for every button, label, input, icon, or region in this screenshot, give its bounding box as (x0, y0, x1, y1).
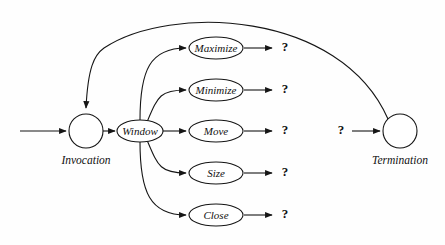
hub-node: Window (117, 120, 163, 142)
invocation-circle (69, 114, 103, 148)
maximize-node: Maximize? (189, 37, 288, 59)
edge-window-to-size (147, 140, 186, 173)
minimize-node-label: Minimize (195, 84, 237, 96)
diagram-canvas: Invocation Window Maximize?Minimize?Move… (0, 0, 445, 245)
state-diagram: Invocation Window Maximize?Minimize?Move… (0, 0, 445, 245)
maximize-node-label: Maximize (194, 42, 238, 54)
invocation-caption: Invocation (60, 154, 110, 166)
move-node-result-marker: ? (282, 122, 289, 137)
move-node-label: Move (203, 125, 229, 137)
move-node: Move? (189, 120, 288, 142)
termination-input-marker: ? (338, 122, 345, 137)
edge-window-to-maximize (140, 48, 186, 120)
close-node: Close? (189, 204, 288, 226)
action-nodes-layer: Maximize?Minimize?Move?Size?Close? (189, 37, 288, 226)
edge-termination-to-invocation-loop (86, 22, 388, 119)
size-node: Size? (189, 162, 288, 184)
termination-caption: Termination (372, 154, 428, 166)
size-node-result-marker: ? (282, 164, 289, 179)
maximize-node-result-marker: ? (282, 39, 289, 54)
edge-window-to-close (140, 142, 186, 215)
start-node: Invocation (60, 114, 110, 166)
minimize-node: Minimize? (189, 79, 288, 101)
termination-circle (383, 114, 417, 148)
window-label: Window (122, 125, 158, 137)
size-node-label: Size (207, 167, 225, 179)
minimize-node-result-marker: ? (282, 81, 289, 96)
close-node-result-marker: ? (282, 206, 289, 221)
close-node-label: Close (203, 209, 228, 221)
edge-window-to-minimize (147, 90, 186, 122)
end-node: Termination (372, 114, 428, 166)
